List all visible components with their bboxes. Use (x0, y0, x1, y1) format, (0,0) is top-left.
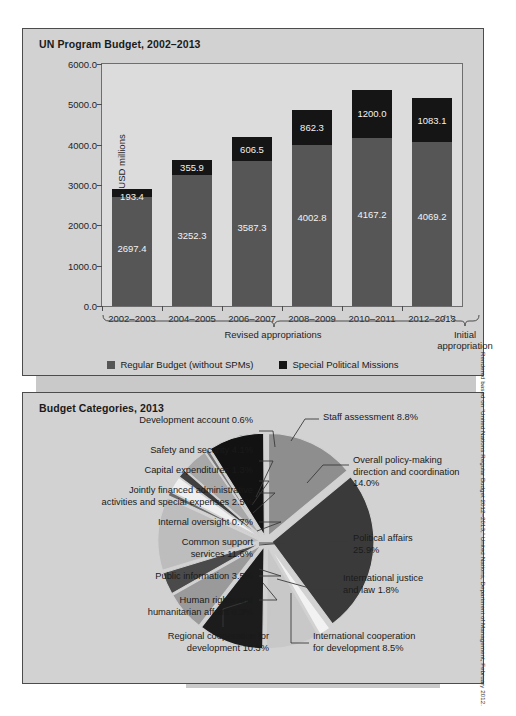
pie-chart-area: Development account 0.6%Staff assessment… (23, 393, 483, 683)
pie-leader-line (291, 593, 309, 643)
legend-swatch-icon (107, 361, 115, 369)
pie-label-internal-oversight: Internal oversight 0.7% (41, 517, 253, 529)
legend-item[interactable]: Special Political Missions (279, 359, 398, 370)
legend-item[interactable]: Regular Budget (without SPMs) (107, 359, 253, 370)
bar-chart-legend: Regular Budget (without SPMs)Special Pol… (23, 359, 483, 370)
pie-label-international-cooperation: International cooperationfor development… (313, 631, 481, 654)
pie-leader-line (256, 461, 273, 497)
pie-leader-line (291, 419, 319, 441)
pie-leader-line (259, 569, 281, 576)
source-credit: Rendered based on “United Nations Regula… (480, 352, 487, 682)
bracket-label-revised-appropriations: Revised appropriations (173, 329, 373, 340)
pie-label-overall-policy-making: Overall policy-makingdirection and coord… (353, 455, 481, 490)
bracket-right-line1: Initial (454, 329, 476, 340)
pie-leader-line (319, 541, 349, 545)
bracket-label-initial-appropriation: Initial appropriation (415, 329, 515, 351)
pie-leader-line (259, 431, 275, 447)
pie-label-international-justice: International justiceand law 1.8% (343, 573, 479, 596)
pie-leader-line (257, 522, 281, 531)
pie-label-jointly-financed: Jointly financed administrativeactivitie… (33, 485, 253, 508)
pie-label-capital-expenditures: Capital expenditures 1.3% (41, 465, 253, 477)
bar-chart-panel: UN Program Budget, 2002–2013 USD million… (22, 28, 484, 376)
pie-label-development-account: Development account 0.6% (41, 415, 253, 427)
pie-label-common-support-services: Common supportservices 11.6% (41, 537, 253, 560)
pie-label-regional-cooperation: Regional cooperation fordevelopment 10.3… (93, 631, 269, 654)
pie-leader-line (307, 465, 349, 483)
legend-label: Regular Budget (without SPMs) (120, 359, 253, 370)
legend-label: Special Political Missions (292, 359, 398, 370)
appropriation-brackets (23, 29, 485, 377)
bracket-right-line2: appropriation (437, 340, 492, 351)
pie-chart-panel: Budget Categories, 2013 Development acco… (22, 392, 484, 684)
legend-swatch-icon (279, 361, 287, 369)
pie-leader-line (259, 543, 285, 545)
pie-label-public-information: Public information 3.5% (41, 571, 253, 583)
pie-leader-line (277, 579, 339, 589)
pie-label-staff-assessment: Staff assessment 8.8% (323, 412, 473, 424)
pie-leader-line (259, 583, 277, 600)
pie-label-safety-and-security: Safety and security 4.1% (41, 445, 253, 457)
pie-label-political-affairs: Political affairs25.9% (353, 533, 481, 556)
pie-label-human-rights: Human rights andhumanitarian affairs 6.3… (41, 595, 253, 618)
